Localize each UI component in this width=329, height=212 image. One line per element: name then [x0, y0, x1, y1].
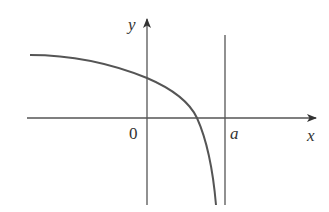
x-axis-label: x — [306, 126, 315, 145]
asymptote-label: a — [230, 124, 239, 143]
y-axis-label: y — [126, 15, 136, 34]
function-curve — [30, 55, 216, 205]
origin-label: 0 — [129, 124, 138, 143]
function-graph: y x 0 a — [0, 0, 329, 212]
